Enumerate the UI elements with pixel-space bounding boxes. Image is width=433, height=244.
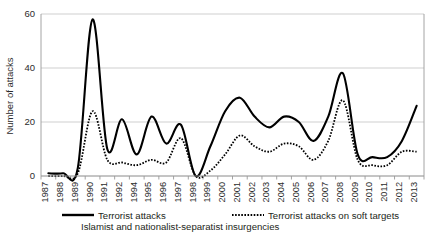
y-tick-label: 0 [30,170,35,181]
x-tick-label: 2009 [350,182,360,202]
x-tick-label: 1989 [70,182,80,202]
x-tick-label: 1994 [129,182,139,202]
plot-frame [41,14,424,176]
x-tick-label: 2011 [379,182,389,202]
x-tick-label: 2005 [291,182,301,202]
x-tick-label: 1987 [40,182,50,202]
x-tick-label: 1988 [55,182,65,202]
series-line-1 [48,19,416,180]
x-tick-label: 2007 [320,182,330,202]
gridlines [41,14,424,176]
y-tick-label: 40 [24,62,35,73]
x-tick-label: 1992 [114,182,124,202]
x-tick-label: 2001 [232,182,242,202]
x-tick-label: 2012 [394,182,404,202]
x-tick-label: 1996 [158,182,168,202]
x-tick-label: 1997 [173,182,183,202]
legend-label-2: Terrorist attacks on soft targets [268,210,399,221]
y-axis-title: Number of attacks [4,57,15,134]
x-tick-label: 2003 [261,182,271,202]
x-tick-label: 2000 [217,182,227,202]
y-tick-label: 20 [24,116,35,127]
x-tick-label: 1995 [143,182,153,202]
y-tick-label: 60 [24,8,35,19]
x-tick-label: 2008 [335,182,345,202]
x-axis-tick-marks [41,176,424,180]
x-axis-tick-labels: 1987198819891990199119921994199519961997… [40,182,418,202]
chart-caption: Islamist and nationalist-separatist insu… [81,221,280,232]
chart-legend: Terrorist attacksTerrorist attacks on so… [0,204,433,244]
x-tick-label: 2010 [364,182,374,202]
chart-figure: Number of attacks 0204060 19871988198919… [0,0,433,244]
legend-label-1: Terrorist attacks [98,210,166,221]
data-series-group [48,19,416,180]
x-tick-label: 1999 [202,182,212,202]
x-tick-label: 2002 [247,182,257,202]
x-tick-label: 1991 [99,182,109,202]
x-tick-label: 2006 [306,182,316,202]
y-axis-tick-labels: 0204060 [24,8,35,181]
x-tick-label: 2004 [276,182,286,202]
x-tick-label: 1998 [188,182,198,202]
x-tick-label: 1990 [85,182,95,202]
x-tick-label: 2013 [409,182,419,202]
